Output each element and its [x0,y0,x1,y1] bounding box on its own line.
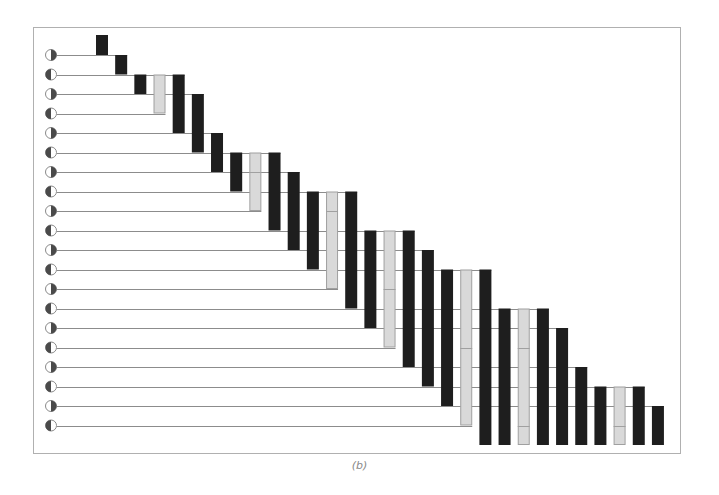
bar-black [288,172,300,250]
row-lines [57,56,664,427]
bar-black [211,133,223,172]
bar-black [422,250,434,387]
bar-black [96,35,108,55]
half-circle-left-icon [46,264,57,275]
half-circle-right-icon [46,206,57,217]
half-circle-left-icon [46,225,57,236]
diagram-figure [0,0,719,495]
half-circle-right-icon [46,245,57,256]
half-circle-left-icon [46,108,57,119]
half-circle-left-icon [46,186,57,197]
bar-black [115,55,127,75]
bar-black [479,270,491,446]
row-markers [46,50,57,432]
bar-black [307,192,319,270]
half-circle-right-icon [46,401,57,412]
half-circle-right-icon [46,128,57,139]
figure-caption: (b) [0,459,719,472]
bar-gray [461,270,472,425]
half-circle-left-icon [46,303,57,314]
bar-black [537,309,549,446]
bar-gray [327,192,338,289]
bar-black [499,309,511,446]
half-circle-right-icon [46,284,57,295]
bar-black [575,367,587,445]
bar-black [594,387,606,446]
half-circle-left-icon [46,381,57,392]
bar-black [441,270,453,407]
half-circle-right-icon [46,89,57,100]
half-circle-left-icon [46,342,57,353]
half-circle-right-icon [46,323,57,334]
bar-black [173,75,185,134]
bar-gray [250,153,261,211]
bar-black [269,153,281,231]
half-circle-right-icon [46,362,57,373]
half-circle-left-icon [46,69,57,80]
bar-black [633,387,645,446]
bar-black [345,192,357,309]
bar-gray [518,309,529,445]
half-circle-left-icon [46,420,57,431]
bar-black [134,75,146,95]
bar-gray [614,387,625,445]
bar-black [192,94,204,153]
bar-black [403,231,415,368]
half-circle-right-icon [46,50,57,61]
half-circle-right-icon [46,167,57,178]
bars [96,35,664,445]
half-circle-left-icon [46,147,57,158]
bar-black [364,231,376,329]
bar-black [556,328,568,445]
bar-black [652,406,664,445]
bar-black [230,153,242,192]
bar-gray [154,75,165,113]
